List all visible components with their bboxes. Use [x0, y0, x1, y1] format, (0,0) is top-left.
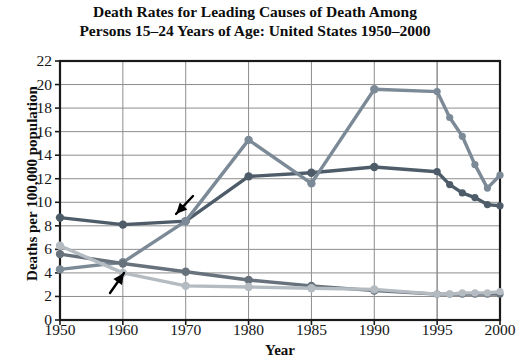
data-point: [307, 179, 315, 187]
data-point: [244, 136, 252, 144]
x-tick-label: 1960: [97, 322, 149, 338]
x-axis-label: Year: [60, 342, 500, 359]
data-point: [244, 283, 252, 291]
data-point: [434, 291, 441, 298]
data-point: [307, 284, 315, 292]
data-point: [119, 220, 127, 228]
chart-title-line-2: Persons 15–24 Years of Age: United State…: [0, 21, 510, 40]
x-tick-label: 1985: [285, 322, 337, 338]
y-tick-label: 10: [18, 194, 52, 210]
y-tick-label: 22: [18, 53, 52, 69]
data-point: [434, 88, 441, 95]
x-tick-label: 1990: [348, 322, 400, 338]
data-point: [484, 289, 491, 296]
data-point: [56, 265, 64, 273]
data-point: [182, 282, 190, 290]
y-tick-label: 12: [18, 171, 52, 187]
y-axis-tick-labels: 2220181614121086420: [18, 0, 52, 364]
grid-lines: [60, 61, 500, 320]
data-point: [56, 242, 64, 250]
data-point: [182, 217, 190, 225]
x-tick-label: 1950: [34, 322, 86, 338]
data-point: [496, 172, 503, 179]
data-point: [471, 194, 478, 201]
data-point: [244, 172, 252, 180]
plot-frame: [60, 61, 500, 320]
y-tick-label: 16: [18, 124, 52, 140]
arrow-annotation-upper: [176, 196, 193, 214]
data-point: [446, 181, 453, 188]
y-tick-label: 6: [18, 241, 52, 257]
chart-title-line-1: Death Rates for Leading Causes of Death …: [0, 2, 510, 21]
data-point: [446, 291, 453, 298]
data-point: [370, 85, 378, 93]
y-tick-label: 20: [18, 77, 52, 93]
x-tick-label: 1970: [160, 322, 212, 338]
y-tick-label: 14: [18, 147, 52, 163]
x-tick-label: 2000: [474, 322, 520, 338]
data-point: [471, 289, 478, 296]
data-point: [459, 289, 466, 296]
data-point: [459, 189, 466, 196]
data-point: [471, 161, 478, 168]
y-tick-label: 2: [18, 288, 52, 304]
data-point: [459, 133, 466, 140]
chart-title: Death Rates for Leading Causes of Death …: [0, 2, 510, 40]
arrow-annotation-lower: [110, 273, 124, 293]
data-point: [496, 202, 503, 209]
y-tick-label: 18: [18, 100, 52, 116]
data-point: [119, 259, 127, 267]
x-tick-label: 1995: [411, 322, 463, 338]
data-point: [370, 163, 378, 171]
data-point: [484, 185, 491, 192]
data-point: [370, 285, 378, 293]
y-tick-label: 8: [18, 218, 52, 234]
axis-ticks: [55, 61, 500, 325]
y-tick-label: 4: [18, 265, 52, 281]
data-point: [484, 201, 491, 208]
data-point: [182, 268, 190, 276]
data-point: [434, 168, 441, 175]
data-point: [307, 169, 315, 177]
data-point: [56, 213, 64, 221]
data-point: [56, 250, 64, 258]
data-point: [446, 114, 453, 121]
data-point: [496, 288, 503, 295]
x-tick-label: 1980: [223, 322, 275, 338]
